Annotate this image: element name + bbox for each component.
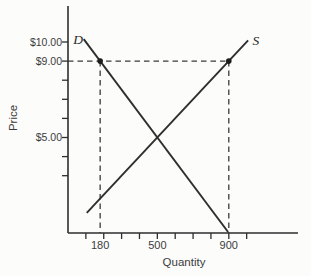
x-axis-tick-label: 900 [220, 239, 238, 251]
intersection-dot [226, 58, 232, 64]
supply-demand-figure: $10.00$9.00$5.00180500900DSQuantityPrice [0, 0, 311, 276]
x-axis-tick-label: 180 [91, 239, 109, 251]
y-axis-tick-label: $9.00 [36, 55, 62, 67]
y-axis-tick-label: $5.00 [36, 131, 62, 143]
demand-curve-label: D [72, 32, 83, 47]
supply-curve [87, 40, 248, 212]
y-axis-title: Price [7, 105, 19, 131]
x-axis-tick-label: 500 [148, 239, 166, 251]
x-axis-title: Quantity [163, 256, 206, 268]
supply-curve-label: S [253, 33, 260, 48]
y-axis-tick-label: $10.00 [30, 36, 62, 48]
demand-curve [84, 39, 228, 232]
supply-demand-chart: $10.00$9.00$5.00180500900DSQuantityPrice [0, 0, 311, 276]
intersection-dot [97, 58, 103, 64]
